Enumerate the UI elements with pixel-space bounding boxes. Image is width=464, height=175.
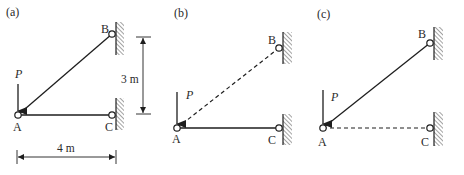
pin-c — [109, 112, 115, 118]
pin-b — [276, 45, 282, 51]
pin-b — [109, 31, 115, 37]
wall-support-c — [116, 98, 124, 130]
node-label-b: B — [268, 33, 276, 47]
wall-support-c — [283, 114, 292, 145]
dimension-label-3m: 3 m — [121, 73, 139, 85]
pin-b — [427, 40, 433, 46]
node-label-c: C — [421, 135, 429, 149]
panel-a: (a) P A B C 3 m 4 m — [6, 5, 151, 164]
panel-label-b: (b) — [174, 6, 188, 20]
pin-c — [427, 125, 433, 131]
panel-b: (b) P A B C — [172, 6, 292, 147]
node-label-a: A — [172, 132, 181, 146]
load-label: P — [330, 90, 339, 104]
wall-support-b — [283, 32, 292, 64]
wall-support-b — [116, 22, 124, 55]
member-ab — [323, 43, 430, 128]
truss-diagram: (a) P A B C 3 m 4 m (b) — [0, 0, 464, 175]
node-label-c: C — [105, 120, 113, 134]
load-label: P — [14, 67, 23, 81]
pin-a — [320, 125, 326, 131]
node-label-a: A — [13, 120, 22, 134]
node-label-b: B — [418, 27, 426, 41]
pin-a — [174, 125, 180, 131]
wall-support-b — [434, 27, 443, 60]
panel-label-c: (c) — [317, 7, 330, 21]
pin-a — [15, 112, 21, 118]
node-label-a: A — [318, 135, 327, 149]
load-label: P — [185, 88, 194, 102]
panel-c: (c) P A B C — [317, 7, 443, 149]
node-label-c: C — [268, 133, 276, 147]
pin-c — [276, 125, 282, 131]
panel-label-a: (a) — [6, 5, 19, 19]
dimension-label-4m: 4 m — [57, 142, 75, 154]
wall-support-c — [434, 112, 443, 146]
member-ab — [18, 34, 112, 115]
node-label-b: B — [101, 22, 109, 36]
